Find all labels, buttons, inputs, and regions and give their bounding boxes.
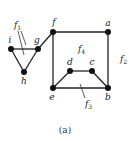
edge-i-h	[11, 49, 24, 72]
edge-g-h	[24, 49, 38, 72]
vertex-a	[105, 29, 111, 35]
vertex-label-f: f	[51, 17, 57, 27]
vertex-label-a: a	[105, 18, 110, 28]
vertex-label-i: i	[9, 35, 12, 45]
vertex-label-d: d	[67, 57, 73, 67]
vertex-d	[67, 68, 73, 74]
vertex-h	[21, 69, 27, 75]
face-label-f3: f3	[84, 99, 92, 110]
edge-g-f	[38, 32, 53, 49]
vertex-label-g: g	[34, 35, 40, 45]
vertex-b	[105, 85, 111, 91]
graph-diagram: abcdefghi f1f2f3f4 (a)	[0, 0, 130, 141]
face-pointer-f1	[21, 31, 26, 45]
face-label-f2: f2	[119, 54, 127, 65]
vertex-e	[50, 85, 56, 91]
vertex-label-e: e	[49, 92, 54, 102]
face-label-f1: f1	[13, 20, 21, 31]
vertex-g	[35, 46, 41, 52]
vertex-i	[8, 46, 14, 52]
face-pointer-f1	[18, 31, 24, 55]
edge-c-b	[92, 71, 108, 88]
edge-e-d	[53, 71, 70, 88]
face-label-f4: f4	[77, 44, 85, 55]
face-pointer-f3	[80, 84, 85, 98]
vertex-label-h: h	[21, 76, 27, 86]
vertex-label-b: b	[105, 92, 111, 102]
vertex-f	[50, 29, 56, 35]
vertex-label-c: c	[89, 57, 94, 67]
vertex-labels: abcdefghi	[9, 17, 112, 102]
vertex-c	[89, 68, 95, 74]
figure-caption: (a)	[59, 125, 71, 135]
